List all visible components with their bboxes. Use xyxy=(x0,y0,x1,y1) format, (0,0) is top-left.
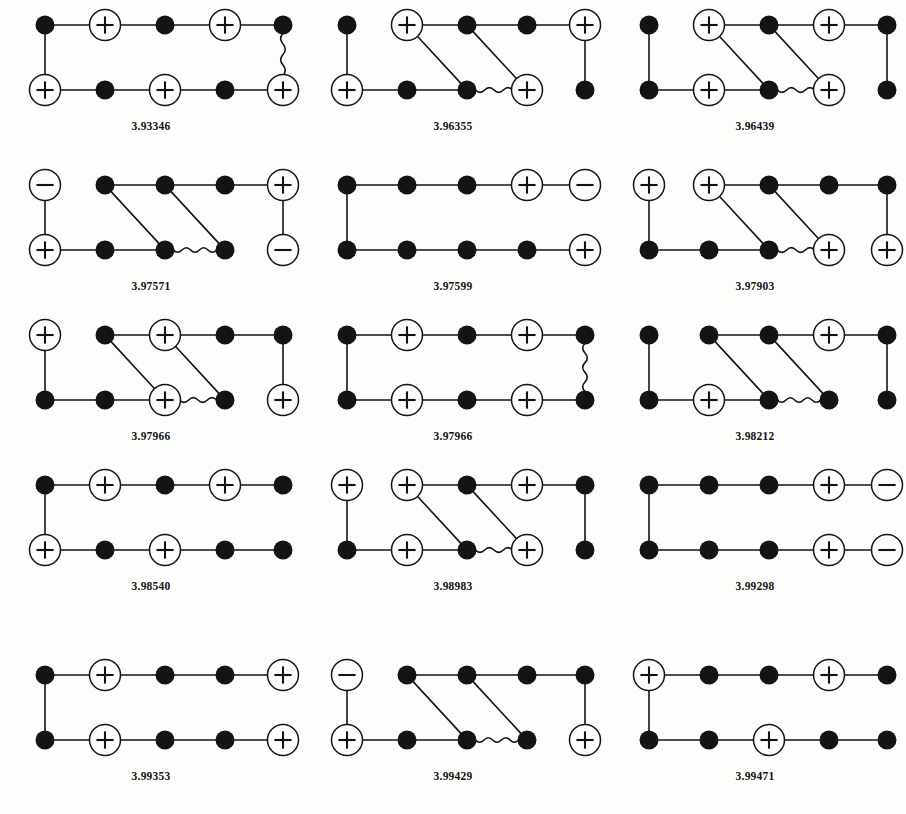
bottom-3-plus-vertex-icon xyxy=(512,385,543,416)
top-1-filled-vertex xyxy=(398,666,417,685)
panel-caption-value: 3.93346 xyxy=(0,120,302,132)
panel-caption-value: 3.97571 xyxy=(0,280,302,292)
bottom-3-filled-vertex xyxy=(216,541,235,560)
bottom-0-filled-vertex xyxy=(640,241,659,260)
bottom-1-filled-vertex xyxy=(96,541,115,560)
bottom-1-plus-vertex-icon xyxy=(90,725,121,756)
top-0-filled-vertex xyxy=(36,476,55,495)
top-1-filled-vertex xyxy=(96,326,115,345)
graph-panel: 3.99298 xyxy=(604,460,906,650)
bottom-2-filled-vertex xyxy=(458,391,477,410)
bottom-3-filled-vertex xyxy=(216,731,235,750)
bottom-0-plus-vertex-icon xyxy=(30,535,61,566)
panel-caption-value: 3.99298 xyxy=(604,580,906,592)
vertex-layer xyxy=(30,10,299,106)
bottom-3-plus-vertex-icon xyxy=(814,235,845,266)
top-3-plus-vertex-icon xyxy=(814,470,845,501)
bottom-3-filled-vertex xyxy=(518,241,537,260)
graph-panel: 3.97571 xyxy=(0,160,302,310)
bottom-4-filled-vertex xyxy=(878,731,897,750)
bottom-2-plus-vertex-icon xyxy=(150,385,181,416)
top-3-filled-vertex xyxy=(518,666,537,685)
bottom-1-plus-vertex-icon xyxy=(694,75,725,106)
top-0-filled-vertex xyxy=(640,326,659,345)
graph-drawing xyxy=(604,0,906,128)
top-4-minus-vertex-icon xyxy=(872,470,903,501)
bottom-0-filled-vertex xyxy=(640,391,659,410)
top-1-filled-vertex xyxy=(398,176,417,195)
bottom-3-plus-vertex-icon xyxy=(814,535,845,566)
top-1-plus-vertex-icon xyxy=(90,470,121,501)
vertex-layer xyxy=(36,660,299,756)
panel-caption-value: 3.98212 xyxy=(604,430,906,442)
bottom-4-plus-vertex-icon xyxy=(570,725,601,756)
panel-caption-value: 3.99353 xyxy=(0,770,302,782)
edge-layer xyxy=(45,675,269,740)
top-3-filled-vertex xyxy=(216,666,235,685)
top-4-plus-vertex-icon xyxy=(570,10,601,41)
top-2-filled-vertex xyxy=(156,666,175,685)
bottom-4-filled-vertex xyxy=(576,391,595,410)
top-3-filled-vertex xyxy=(518,16,537,35)
bottom-3-filled-vertex xyxy=(216,81,235,100)
graph-panel: 3.98212 xyxy=(604,310,906,460)
bottom-3-filled-vertex xyxy=(820,391,839,410)
top-3-plus-vertex-icon xyxy=(814,660,845,691)
top-0-filled-vertex xyxy=(338,176,357,195)
graph-panel: 3.97903 xyxy=(604,160,906,310)
top-1-plus-vertex-icon xyxy=(392,470,423,501)
top-4-filled-vertex xyxy=(878,326,897,345)
graph-panel: 3.99353 xyxy=(0,650,302,814)
bottom-2-filled-vertex xyxy=(760,541,779,560)
graph-panel: 3.97599 xyxy=(302,160,604,310)
vertex-layer xyxy=(640,470,903,566)
panel-caption-value: 3.98983 xyxy=(302,580,604,592)
bottom-1-filled-vertex xyxy=(700,731,719,750)
bottom-3-filled-vertex xyxy=(820,731,839,750)
graph-panel: 3.96439 xyxy=(604,0,906,160)
bottom-0-filled-vertex xyxy=(640,731,659,750)
top-1-plus-vertex-icon xyxy=(392,320,423,351)
top-2-filled-vertex xyxy=(156,476,175,495)
bottom-1-filled-vertex xyxy=(96,241,115,260)
top-2-plus-vertex-icon xyxy=(150,320,181,351)
graph-panel: 3.93346 xyxy=(0,0,302,160)
graph-panel: 3.97966 xyxy=(0,310,302,460)
bottom-4-plus-vertex-icon xyxy=(570,235,601,266)
bottom-0-plus-vertex-icon xyxy=(332,75,363,106)
top-2-filled-vertex xyxy=(760,176,779,195)
top-3-plus-vertex-icon xyxy=(512,320,543,351)
graph-drawing xyxy=(302,160,604,288)
bottom-4-filled-vertex xyxy=(878,81,897,100)
top-1-filled-vertex xyxy=(96,176,115,195)
bottom-4-plus-vertex-icon xyxy=(268,385,299,416)
top-3-filled-vertex xyxy=(216,326,235,345)
top-4-minus-vertex-icon xyxy=(570,170,601,201)
bottom-4-plus-vertex-icon xyxy=(268,725,299,756)
top-1-plus-vertex-icon xyxy=(694,10,725,41)
panel-caption-value: 3.97966 xyxy=(0,430,302,442)
bottom-4-filled-vertex xyxy=(576,541,595,560)
top-3-plus-vertex-icon xyxy=(814,10,845,41)
top-2-filled-vertex xyxy=(156,176,175,195)
bottom-1-filled-vertex xyxy=(700,541,719,560)
graph-drawing xyxy=(604,460,906,588)
graph-drawing xyxy=(302,310,604,438)
bottom-4-minus-vertex-icon xyxy=(268,235,299,266)
bottom-1-plus-vertex-icon xyxy=(694,385,725,416)
vertex-layer xyxy=(332,660,601,756)
top-0-plus-vertex-icon xyxy=(30,320,61,351)
top-4-plus-vertex-icon xyxy=(268,170,299,201)
top-0-filled-vertex xyxy=(640,476,659,495)
top-3-plus-vertex-icon xyxy=(512,470,543,501)
bottom-4-plus-vertex-icon xyxy=(872,235,903,266)
bottom-4-filled-vertex xyxy=(576,81,595,100)
panel-caption-value: 3.99471 xyxy=(604,770,906,782)
bottom-0-filled-vertex xyxy=(640,81,659,100)
vertex-layer xyxy=(30,470,293,566)
bottom-4-filled-vertex xyxy=(878,391,897,410)
bottom-2-filled-vertex xyxy=(458,731,477,750)
top-4-filled-vertex xyxy=(576,666,595,685)
top-0-plus-vertex-icon xyxy=(332,470,363,501)
panel-caption-value: 3.97599 xyxy=(302,280,604,292)
